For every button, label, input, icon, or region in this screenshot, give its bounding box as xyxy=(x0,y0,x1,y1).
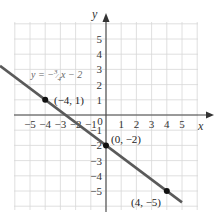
x-tick-label: −5 xyxy=(24,118,36,130)
y-axis-label: y xyxy=(91,7,98,21)
y-tick-label: 4 xyxy=(97,48,103,60)
x-tick-label: 2 xyxy=(134,118,140,130)
y-tick-label: −3 xyxy=(90,155,102,167)
x-axis-label: x xyxy=(197,119,204,133)
x-tick-label: 4 xyxy=(164,118,170,130)
point-label-0-neg2: (0, −2) xyxy=(111,133,141,146)
x-tick-label: 3 xyxy=(149,118,155,130)
x-tick-label: −4 xyxy=(39,118,51,130)
data-point xyxy=(164,188,170,194)
y-tick-label: 5 xyxy=(97,33,103,45)
y-tick-label: 3 xyxy=(97,63,103,75)
axes: x y xyxy=(14,7,214,212)
x-axis-arrow-icon xyxy=(206,112,214,119)
y-tick-label: 1 xyxy=(97,94,103,106)
equation-label: y = −3⁄4x − 2 xyxy=(30,68,82,83)
y-tick-label: −4 xyxy=(90,170,102,182)
y-tick-label: −5 xyxy=(90,185,102,197)
data-point xyxy=(42,97,48,103)
coordinate-plane: x y −5−4−3−2−101234554321−1−2−3−4−5 y = … xyxy=(0,0,222,218)
x-tick-label: −3 xyxy=(55,118,67,130)
y-tick-label: 2 xyxy=(97,79,103,91)
x-tick-label: 5 xyxy=(179,118,185,130)
point-label-4-neg5: (4, −5) xyxy=(131,196,161,209)
point-label-neg4-1: (−4, 1) xyxy=(54,94,84,107)
data-point xyxy=(103,142,109,148)
y-axis-arrow-icon xyxy=(103,13,110,22)
x-tick-label: 1 xyxy=(118,118,124,130)
